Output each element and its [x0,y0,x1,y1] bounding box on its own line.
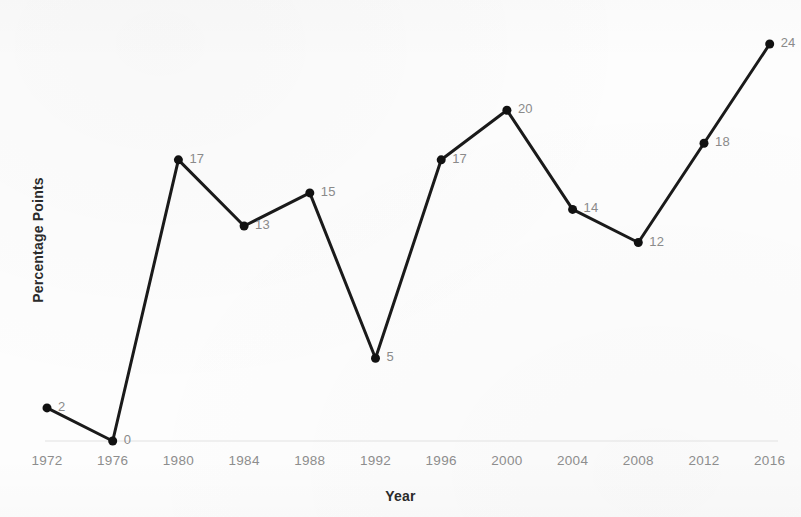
line-chart: 201713155172014121824 197219761980198419… [0,0,801,517]
data-point-marker [43,403,52,412]
x-axis-tick-label: 1976 [83,453,143,468]
y-axis-title: Percentage Points [30,160,46,320]
data-point-label: 12 [649,234,664,249]
data-point-marker [568,205,577,214]
data-point-marker [437,155,446,164]
data-point-marker [765,40,774,49]
data-point-label: 20 [518,101,533,116]
x-axis-tick-label: 2016 [740,453,800,468]
data-point-label: 17 [189,151,204,166]
data-point-label: 0 [124,432,131,447]
data-point-marker [700,139,709,148]
x-axis-tick-label: 2000 [477,453,537,468]
data-point-label: 13 [255,217,270,232]
data-point-label: 5 [387,349,394,364]
data-point-label: 14 [584,200,599,215]
x-axis-title: Year [0,488,801,504]
data-point-label: 24 [781,35,796,50]
data-point-marker [305,188,314,197]
data-point-label: 15 [321,184,336,199]
data-point-marker [174,155,183,164]
data-point-label: 2 [58,399,65,414]
x-axis-tick-label: 1992 [346,453,406,468]
data-point-label: 17 [452,151,467,166]
data-point-marker [108,437,117,446]
x-axis-tick-label: 2012 [674,453,734,468]
data-point-marker [371,354,380,363]
x-axis-tick-label: 2004 [543,453,603,468]
data-point-marker [240,221,249,230]
x-axis-tick-label: 1996 [411,453,471,468]
x-axis-tick-label: 1980 [148,453,208,468]
x-axis-tick-label: 1972 [17,453,77,468]
x-axis-tick-label: 2008 [608,453,668,468]
plot-area [0,0,801,517]
data-point-marker-group [43,40,775,446]
data-point-marker [634,238,643,247]
data-point-marker [502,106,511,115]
data-point-label: 18 [715,134,730,149]
x-axis-tick-label: 1988 [280,453,340,468]
x-axis-tick-label: 1984 [214,453,274,468]
